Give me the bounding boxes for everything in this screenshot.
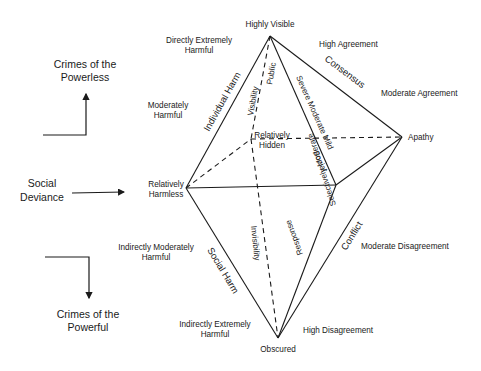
vertex-left-label: RelativelyHarmless xyxy=(148,180,184,199)
vertex-right-label: Apathy xyxy=(408,133,434,142)
powerful-line1: Crimes of the xyxy=(57,308,120,320)
harm-moderate: ModeratelyHarmful xyxy=(148,101,189,120)
vertex-back-label: RelativelyHidden xyxy=(254,131,290,150)
vertex-top-label: Highly Visible xyxy=(246,20,295,29)
edge-label-invisibility: Invisibility xyxy=(249,225,262,262)
vertex-bottom-label: Obscured xyxy=(260,345,296,354)
harm-indirect-moderate: Indirectly ModeratelyHarmful xyxy=(118,243,194,262)
edge-front-bottom xyxy=(278,185,336,338)
powerful-line2: Powerful xyxy=(68,321,109,333)
powerless-line1: Crimes of the xyxy=(54,58,117,70)
edge-top-left xyxy=(186,36,270,188)
deviance-line2: Deviance xyxy=(20,191,64,203)
edge-label-public: Public xyxy=(265,62,278,86)
deviance-group: Social Deviance xyxy=(20,177,124,203)
powerful-arrow-icon xyxy=(45,257,89,298)
solid-edges xyxy=(186,36,402,338)
harm-directly-extreme: Directly ExtremelyHarmful xyxy=(166,36,233,55)
powerless-arrow-icon xyxy=(43,94,86,135)
social-harm-pyramid-diagram: Highly Visible RelativelyHarmless Apathy… xyxy=(0,0,481,371)
edge-label-response: Response xyxy=(284,218,305,256)
powerless-line2: Powerless xyxy=(61,71,109,83)
agreement-high: High Agreement xyxy=(319,40,378,49)
disagreement-high: High Disagreement xyxy=(303,326,374,335)
edge-front-apathy xyxy=(336,137,402,185)
harm-indirect-extreme: Indirectly ExtremelyHarmful xyxy=(179,320,251,339)
edge-label-consensus: Consensus xyxy=(323,53,368,91)
edge-left-bottom xyxy=(186,188,278,338)
edge-left-back xyxy=(186,139,251,188)
deviance-line1: Social xyxy=(28,177,57,189)
disagreement-moderate: Moderate Disagreement xyxy=(361,242,450,251)
powerless-group: Crimes of the Powerless xyxy=(43,58,116,135)
edge-left-front xyxy=(186,185,336,188)
powerful-group: Crimes of the Powerful xyxy=(45,257,119,333)
edge-top-apathy xyxy=(270,36,402,137)
deviance-arrow-icon xyxy=(72,192,124,193)
agreement-moderate: Moderate Agreement xyxy=(381,89,458,98)
